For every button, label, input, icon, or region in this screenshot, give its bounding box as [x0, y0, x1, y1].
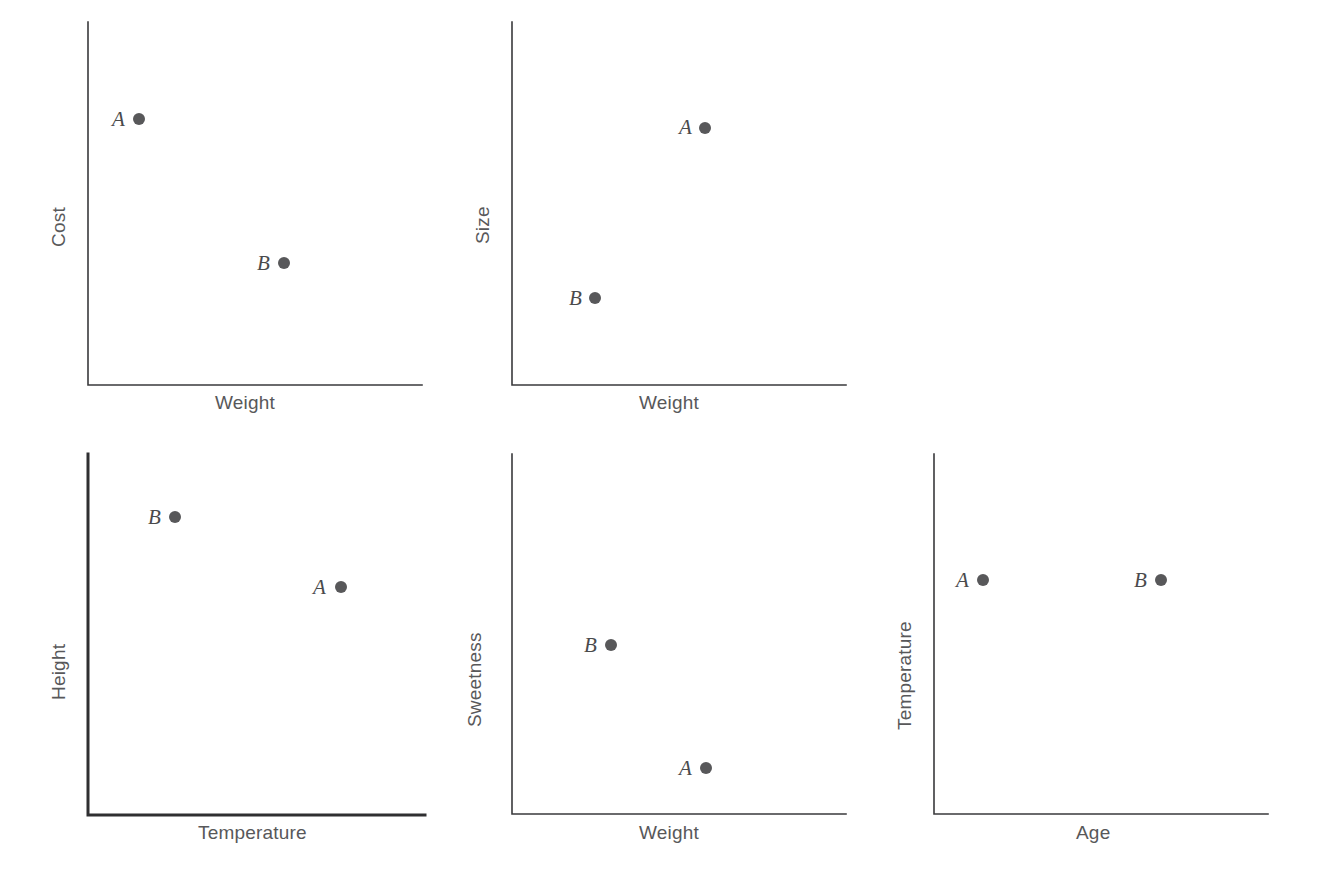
- data-point-b: [1155, 574, 1167, 586]
- data-point-a: [133, 113, 145, 125]
- data-point-a: [335, 581, 347, 593]
- panel-temperature-vs-age: Temperature Age A B: [846, 430, 1324, 870]
- data-point-b: [589, 292, 601, 304]
- point-label-a: A: [679, 756, 692, 781]
- point-label-a: A: [956, 568, 969, 593]
- panel-2-axes: [424, 0, 894, 430]
- panel-3-axes: [0, 430, 470, 870]
- point-label-b: B: [257, 251, 270, 276]
- panel-5-axes: [846, 430, 1324, 870]
- panel-size-vs-weight: Size Weight A B: [424, 0, 894, 430]
- y-axis-label: Sweetness: [464, 632, 486, 727]
- point-label-a: A: [313, 575, 326, 600]
- data-point-a: [977, 574, 989, 586]
- panel-sweetness-vs-weight: Sweetness Weight B A: [424, 430, 894, 870]
- y-axis-label: Height: [48, 644, 70, 700]
- axis-lines: [934, 454, 1268, 814]
- panel-height-vs-temperature: Height Temperature B A: [0, 430, 470, 870]
- point-label-b: B: [1134, 568, 1147, 593]
- axis-lines: [88, 454, 425, 815]
- x-axis-label: Weight: [639, 392, 699, 414]
- panel-4-axes: [424, 430, 894, 870]
- point-label-a: A: [679, 115, 692, 140]
- point-label-b: B: [569, 286, 582, 311]
- point-label-b: B: [148, 505, 161, 530]
- data-point-a: [700, 762, 712, 774]
- x-axis-label: Age: [1076, 822, 1110, 844]
- x-axis-label: Weight: [639, 822, 699, 844]
- y-axis-label: Cost: [48, 207, 70, 247]
- data-point-b: [605, 639, 617, 651]
- x-axis-label: Temperature: [198, 822, 307, 844]
- axis-lines: [88, 22, 422, 385]
- point-label-a: A: [112, 107, 125, 132]
- axis-lines: [512, 22, 846, 385]
- x-axis-label: Weight: [215, 392, 275, 414]
- point-label-b: B: [584, 633, 597, 658]
- data-point-b: [278, 257, 290, 269]
- data-point-a: [699, 122, 711, 134]
- y-axis-label: Temperature: [894, 621, 916, 730]
- panel-cost-vs-weight: Cost Weight A B: [0, 0, 470, 430]
- multi-panel-scatter-figure: Cost Weight A B Size Weight A B Height T…: [0, 0, 1324, 884]
- panel-1-axes: [0, 0, 470, 430]
- data-point-b: [169, 511, 181, 523]
- y-axis-label: Size: [472, 206, 494, 244]
